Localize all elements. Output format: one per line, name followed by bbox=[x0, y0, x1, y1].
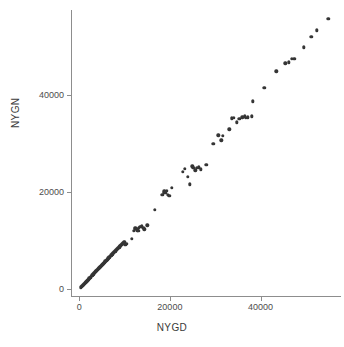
data-point bbox=[263, 86, 266, 89]
x-tick-mark bbox=[170, 297, 171, 301]
data-point bbox=[165, 189, 168, 192]
y-tick-label: 20000 bbox=[39, 187, 64, 196]
y-tick-mark bbox=[67, 95, 71, 96]
data-point bbox=[146, 223, 149, 226]
y-axis-line bbox=[71, 10, 72, 297]
data-point bbox=[315, 29, 318, 32]
data-point bbox=[327, 17, 330, 20]
data-point bbox=[125, 242, 128, 245]
data-point bbox=[228, 128, 231, 131]
data-point bbox=[232, 116, 235, 119]
data-point bbox=[251, 100, 254, 103]
data-point bbox=[186, 175, 189, 178]
data-point bbox=[310, 35, 313, 38]
data-point bbox=[221, 134, 224, 137]
data-point bbox=[181, 170, 184, 173]
data-point bbox=[153, 208, 156, 211]
data-point bbox=[204, 163, 207, 166]
data-point bbox=[292, 57, 295, 60]
x-axis-title: NYGD bbox=[0, 322, 344, 333]
data-point bbox=[143, 228, 146, 231]
data-point bbox=[275, 70, 278, 73]
data-point bbox=[136, 229, 139, 232]
x-tick-label: 40000 bbox=[248, 303, 273, 312]
data-point bbox=[130, 237, 133, 240]
data-point bbox=[217, 134, 220, 137]
y-tick-mark bbox=[67, 192, 71, 193]
y-axis-title: NYGN bbox=[10, 98, 21, 129]
data-point bbox=[235, 120, 238, 123]
data-point bbox=[212, 142, 215, 145]
data-point bbox=[170, 186, 173, 189]
data-point bbox=[250, 115, 253, 118]
x-tick-label: 20000 bbox=[157, 303, 182, 312]
data-point bbox=[302, 46, 305, 49]
data-point bbox=[287, 61, 290, 64]
scatter-plot-panel: 02000040000 02000040000 NYGD NYGN bbox=[0, 0, 344, 347]
data-point bbox=[219, 138, 222, 141]
y-tick-label: 40000 bbox=[39, 90, 64, 99]
x-tick-mark bbox=[261, 297, 262, 301]
data-point bbox=[188, 183, 191, 186]
data-point bbox=[183, 167, 186, 170]
data-point bbox=[168, 194, 171, 197]
x-axis-line bbox=[71, 296, 341, 297]
data-point bbox=[199, 168, 202, 171]
x-tick-mark bbox=[79, 297, 80, 301]
x-tick-label: 0 bbox=[77, 303, 82, 312]
y-tick-label: 0 bbox=[59, 284, 64, 293]
chart-root: 02000040000 02000040000 NYGD NYGN bbox=[0, 0, 344, 347]
y-tick-mark bbox=[67, 289, 71, 290]
